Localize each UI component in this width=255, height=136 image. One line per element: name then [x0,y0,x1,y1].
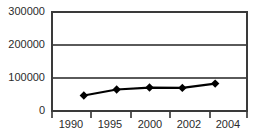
x-tick-label-2004: 2004 [208,119,248,130]
x-tick-mark-3 [169,112,171,118]
x-tick-mark-5 [246,112,248,118]
x-tick-label-1990: 1990 [51,119,91,130]
x-tick-mark-1 [90,112,92,118]
x-tick-mark-4 [209,112,211,118]
y-tick-label-200000: 200000 [0,39,45,50]
x-tick-label-2002: 2002 [169,119,209,130]
y-axis: 300000 200000 100000 0 [0,0,255,136]
x-tick-mark-2 [130,112,132,118]
x-tick-label-2000: 2000 [130,119,170,130]
line-chart-figure: 300000 200000 100000 0 1990 1995 2000 20… [0,0,255,136]
y-tick-label-100000: 100000 [0,72,45,83]
y-tick-label-0: 0 [0,105,45,116]
x-tick-mark-0 [51,112,53,118]
x-tick-label-1995: 1995 [90,119,130,130]
y-tick-label-300000: 300000 [0,6,45,17]
